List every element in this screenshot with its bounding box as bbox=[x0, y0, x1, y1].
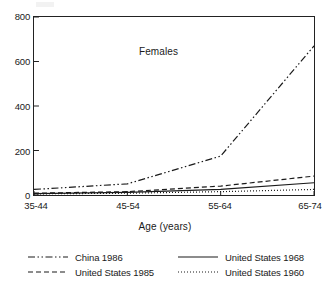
legend-item: United States 1985 bbox=[28, 265, 178, 279]
y-axis-ticks bbox=[34, 17, 39, 195]
legend-line-icon bbox=[178, 267, 218, 277]
legend-label: United States 1968 bbox=[225, 252, 304, 263]
legend-label: China 1986 bbox=[75, 252, 123, 263]
legend-line-icon bbox=[178, 252, 218, 262]
y-tick-label: 400 bbox=[0, 102, 30, 112]
y-tick-label: 800 bbox=[0, 12, 30, 22]
y-axis-labels: 800 600 400 200 0 bbox=[0, 0, 30, 282]
x-tick-label: 35-44 bbox=[6, 200, 66, 211]
legend-item: United States 1960 bbox=[178, 265, 328, 279]
legend-line-icon bbox=[28, 267, 68, 277]
series-line bbox=[34, 189, 314, 193]
chart-legend: China 1986 United States 1968 United Sta… bbox=[28, 250, 324, 279]
plot-annotation-females: Females bbox=[139, 46, 178, 57]
x-axis-labels: 35-44 45-54 55-64 65-74 bbox=[0, 200, 330, 216]
data-series-group bbox=[34, 46, 314, 194]
legend-item: United States 1968 bbox=[178, 250, 328, 264]
x-axis-title: Age (years) bbox=[0, 221, 330, 232]
series-line bbox=[34, 46, 314, 190]
y-tick-label: 200 bbox=[0, 147, 30, 157]
legend-label: United States 1960 bbox=[225, 267, 304, 278]
scan-artifact bbox=[36, 2, 54, 7]
legend-item: China 1986 bbox=[28, 250, 178, 264]
chart-figure: 800 600 400 200 0 Females 35-44 45-54 55… bbox=[0, 0, 330, 282]
x-tick-label: 45-54 bbox=[98, 200, 158, 211]
plot-area: Females bbox=[33, 16, 315, 196]
chart-canvas bbox=[34, 17, 314, 195]
y-tick-label: 600 bbox=[0, 57, 30, 67]
x-tick-label: 65-74 bbox=[280, 200, 330, 211]
legend-label: United States 1985 bbox=[75, 267, 154, 278]
x-tick-label: 55-64 bbox=[190, 200, 250, 211]
legend-line-icon bbox=[28, 252, 68, 262]
